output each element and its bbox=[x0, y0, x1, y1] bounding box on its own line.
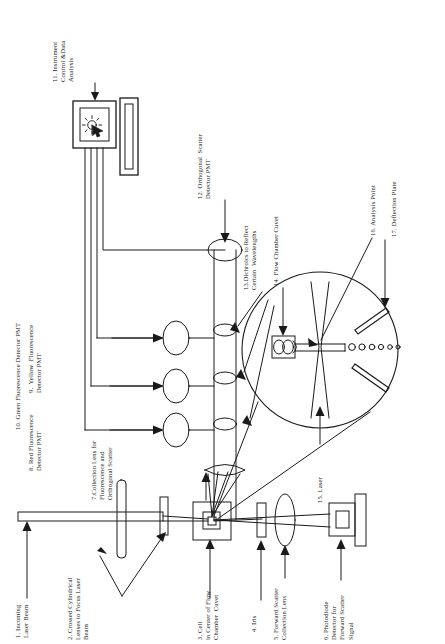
cursor-arrow bbox=[92, 125, 103, 137]
keyboard bbox=[120, 98, 138, 175]
dichroic-3 bbox=[214, 418, 237, 430]
label-8: 8. Red Fluorescence Detector PMT bbox=[27, 415, 43, 472]
yellow-fluorescence-pmt bbox=[163, 369, 189, 403]
deflection-plate-upper bbox=[355, 308, 389, 334]
computer-monitor bbox=[73, 101, 116, 148]
red-fluorescence-pmt bbox=[163, 413, 189, 447]
diagram-linework bbox=[0, 0, 445, 644]
green-fluorescence-pmt bbox=[163, 321, 189, 355]
inset-nozzle bbox=[272, 336, 297, 358]
label-17: 17. Deflection Plate bbox=[390, 181, 398, 237]
deflection-plate-lower bbox=[352, 364, 389, 392]
label-15: 15. Laser bbox=[316, 477, 324, 503]
label-13: 13.Dichroics to Reflect Certain Waveleng… bbox=[242, 225, 258, 290]
droplet-train bbox=[349, 344, 400, 351]
label-9: 9. Yellow Fluorescence Detector PMT bbox=[27, 325, 43, 393]
incoming-laser-beam bbox=[18, 512, 163, 521]
label-16: 16. Analysis Point bbox=[369, 185, 377, 236]
cylindrical-lens-vertical bbox=[117, 480, 126, 558]
label-5: 5. Forward Scatter Collection Lens bbox=[272, 588, 288, 640]
label-6: 6. Photodiode Detector for Forward Scatt… bbox=[322, 595, 355, 640]
label-4: 4. Iris bbox=[250, 616, 258, 632]
label-14: 14. Flow Chamber Cuvet bbox=[272, 216, 280, 286]
inset-magnifier-circle bbox=[242, 272, 398, 428]
label-11: 11. Instrument Control &Data Analysis bbox=[51, 41, 76, 82]
label-2: 2. Crossed Cylindrical Lenses to Focus L… bbox=[66, 578, 91, 640]
label-7: 7.Collection Lens for Fluorescence and O… bbox=[90, 441, 115, 500]
inset-laser-beam bbox=[311, 282, 329, 418]
iris bbox=[257, 503, 266, 537]
photodiode-detector bbox=[329, 494, 366, 546]
dichroic-2 bbox=[214, 372, 237, 384]
label-3: 3. Cell in Center of Flow Chamber Cuvet bbox=[196, 591, 221, 640]
label-10: 10. Green Fluorescence Detector PMT bbox=[14, 323, 22, 430]
label-12: 12. Orthogonal Scatter Detector PMT bbox=[196, 134, 212, 199]
collection-lens bbox=[205, 465, 245, 476]
label-1: 1. Incoming Laser Beam bbox=[14, 604, 30, 638]
forward-scatter-collection-lens bbox=[275, 494, 295, 546]
diagram-canvas: 11. Instrument Control &Data Analysis 12… bbox=[0, 0, 445, 644]
